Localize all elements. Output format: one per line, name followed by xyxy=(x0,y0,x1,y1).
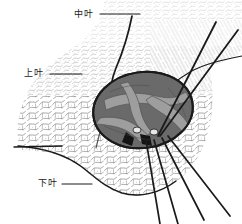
anatomical-figure: 中叶 上叶 下叶 xyxy=(0,0,242,224)
lung-illustration-svg xyxy=(0,0,242,224)
label-lower-lobe: 下叶 xyxy=(38,178,57,188)
label-middle-lobe: 中叶 xyxy=(74,9,93,19)
label-upper-lobe: 上叶 xyxy=(24,68,43,78)
